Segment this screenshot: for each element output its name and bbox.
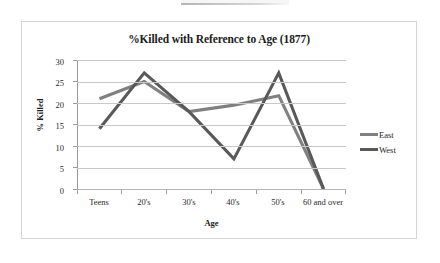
- y-tick-label-10: 10: [36, 143, 64, 153]
- y-axis-title: % Killed: [35, 88, 45, 142]
- y-tick-label-30: 30: [36, 57, 64, 67]
- gridline-25: [77, 82, 346, 83]
- gridline-30: [77, 60, 346, 61]
- y-tick-label-25: 25: [36, 78, 64, 88]
- x-tick-6: [345, 190, 346, 194]
- x-tick-1: [121, 190, 122, 194]
- scan-artifact-line: [181, 3, 289, 5]
- legend-item-west[interactable]: West: [360, 142, 420, 157]
- gridline-15: [77, 125, 346, 126]
- chart-frame: %Killed with Reference to Age (1877) 30 …: [21, 21, 417, 239]
- legend-label-west: West: [379, 145, 396, 155]
- legend-swatch-east-icon: [360, 133, 378, 136]
- x-tick-label-60-and-over: 60 and over: [295, 197, 351, 207]
- x-tick-5: [301, 190, 302, 194]
- plot-area: [77, 60, 346, 189]
- x-tick-2: [166, 190, 167, 194]
- gridline-5: [77, 168, 346, 169]
- x-axis-title: Age: [77, 218, 346, 228]
- x-tick-4: [256, 190, 257, 194]
- legend: East West: [360, 127, 420, 157]
- gridline-10: [77, 146, 346, 147]
- legend-swatch-west-icon: [360, 148, 378, 151]
- x-tick-3: [211, 190, 212, 194]
- series-line-west: [99, 73, 323, 189]
- gridline-20: [77, 103, 346, 104]
- chart-title: %Killed with Reference to Age (1877): [22, 33, 416, 45]
- y-tick-label-5: 5: [36, 164, 64, 174]
- legend-label-east: East: [379, 130, 394, 140]
- x-tick-0: [77, 190, 78, 194]
- y-tick-label-0: 0: [36, 186, 64, 196]
- legend-item-east[interactable]: East: [360, 127, 420, 142]
